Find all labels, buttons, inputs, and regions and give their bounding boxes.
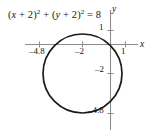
y-tick-label-neg-4-8: –4.8 [88, 105, 104, 115]
equation-plus-1: + [16, 9, 27, 20]
y-axis-label: y [112, 4, 116, 14]
y-tick-label-neg-2: –2 [95, 64, 104, 74]
equation-plus-2: + [60, 9, 71, 20]
x-axis-label: x [140, 39, 144, 49]
y-tick-label-1: 1 [99, 22, 104, 32]
x-tick-label-neg-4-8: –4.8 [29, 46, 45, 56]
equation-equals-sign: = [84, 9, 95, 20]
equation-annotation: (x + 2)2 + (y + 2)2 = 8 [8, 9, 101, 20]
equation-result-8: 8 [96, 9, 101, 20]
equation-plus-middle: + [40, 9, 51, 20]
x-tick-label-neg-2: –2 [75, 46, 84, 56]
circle-graph-figure: (x + 2)2 + (y + 2)2 = 8 x y –4.8 –2 1 1 … [0, 0, 149, 137]
x-tick-label-1: 1 [121, 46, 126, 56]
coordinate-plane [0, 0, 149, 137]
